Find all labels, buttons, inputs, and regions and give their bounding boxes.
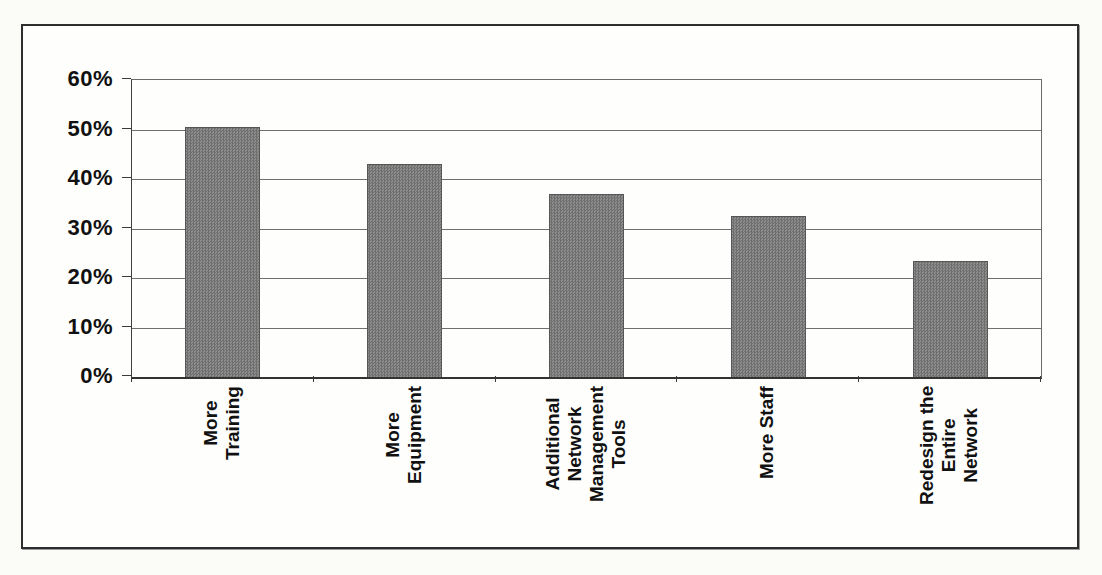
bar-1 (185, 127, 260, 377)
bar-2 (367, 164, 442, 377)
plot-area (131, 79, 1042, 379)
y-tick-label: 10% (29, 314, 113, 340)
bar-4 (731, 216, 806, 377)
bar-5 (913, 261, 988, 377)
x-category-label: More Staff (756, 386, 778, 479)
x-axis-tick (858, 376, 859, 382)
y-tick-label: 50% (29, 116, 113, 142)
x-category-label: More Training (200, 386, 244, 460)
y-axis-tick (122, 276, 131, 277)
x-axis-tick (131, 376, 132, 382)
x-category-label: More Equipment (382, 386, 426, 484)
gridline (132, 130, 1041, 131)
x-category-label: Redesign the Entire Network (916, 386, 982, 505)
x-axis-tick (676, 376, 677, 382)
y-axis-tick (122, 177, 131, 178)
y-tick-label: 0% (29, 363, 113, 389)
y-axis-tick (122, 227, 131, 228)
y-tick-label: 60% (29, 66, 113, 92)
y-tick-label: 40% (29, 165, 113, 191)
x-category-label: Additional Network Management Tools (542, 386, 630, 502)
figure-canvas: 0%10%20%30%40%50%60%More TrainingMore Eq… (0, 0, 1102, 575)
y-axis-tick (122, 375, 131, 376)
y-tick-label: 30% (29, 215, 113, 241)
bar-3 (549, 194, 624, 377)
x-axis-tick (1040, 376, 1041, 382)
y-axis-tick (122, 326, 131, 327)
gridline (132, 179, 1041, 180)
x-axis-tick (313, 376, 314, 382)
x-axis-tick (495, 376, 496, 382)
y-tick-label: 20% (29, 264, 113, 290)
y-axis-tick (122, 128, 131, 129)
y-axis-tick (122, 78, 131, 79)
